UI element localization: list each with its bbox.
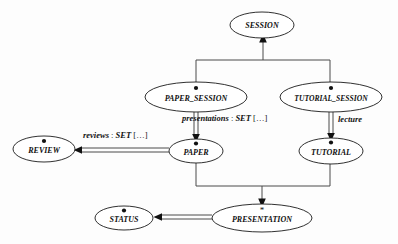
edge-label-brackets: […] (131, 130, 147, 140)
node-label-presentation: PRESENTATION (232, 215, 293, 224)
node-tutorial-session[interactable]: TUTORIAL_SESSION (280, 82, 382, 112)
node-label-tutorial-session: TUTORIAL_SESSION (294, 94, 368, 103)
edge-label-role: presentations (182, 113, 229, 123)
arrowhead-status (154, 213, 163, 221)
edge-label-presentations: presentations : SET […] (182, 114, 267, 123)
node-paper[interactable]: PAPER (169, 139, 223, 163)
edge-paper-to-review (74, 146, 170, 154)
cardinality-dot-icon (329, 140, 333, 144)
edge-label-brackets: […] (251, 113, 267, 123)
node-review[interactable]: REVIEW (13, 136, 75, 162)
node-session[interactable]: SESSION (230, 12, 294, 38)
node-label-session: SESSION (245, 21, 280, 30)
cardinality-dot-icon (42, 139, 46, 143)
node-presentation[interactable]: * PRESENTATION (212, 204, 312, 232)
cardinality-dot-icon (122, 208, 126, 212)
node-label-paper-session: PAPER_SESSION (165, 94, 229, 103)
node-label-status: STATUS (110, 215, 139, 224)
cardinality-star-icon: * (260, 205, 265, 215)
edge-presentation-to-status (154, 213, 213, 221)
node-label-review: REVIEW (27, 146, 60, 155)
edge-papers-to-presentation (196, 163, 330, 208)
cardinality-dot-icon (194, 141, 198, 145)
node-label-paper: PAPER (183, 148, 209, 157)
node-tutorial[interactable]: TUTORIAL (299, 138, 363, 164)
edge-label-type: SET (235, 113, 251, 123)
edge-label-role: lecture (338, 114, 362, 124)
edge-label-colon: : (109, 130, 116, 140)
edge-label-reviews: reviews : SET […] (83, 131, 147, 140)
cardinality-dot-icon (194, 86, 198, 90)
connector-layer (74, 34, 335, 221)
edge-label-lecture: lecture (338, 115, 362, 124)
edge-tutorial-session-to-tutorial (327, 112, 335, 142)
edge-label-type: SET (116, 130, 132, 140)
node-status[interactable]: STATUS (95, 206, 153, 230)
er-diagram-canvas: SESSION PAPER_SESSION TUTORIAL_SESSION R… (0, 0, 398, 244)
node-paper-session[interactable]: PAPER_SESSION (145, 82, 247, 112)
node-label-tutorial: TUTORIAL (311, 148, 351, 157)
edge-sessions-to-session (196, 34, 330, 83)
cardinality-dot-icon (329, 86, 333, 90)
edge-label-role: reviews (83, 130, 109, 140)
